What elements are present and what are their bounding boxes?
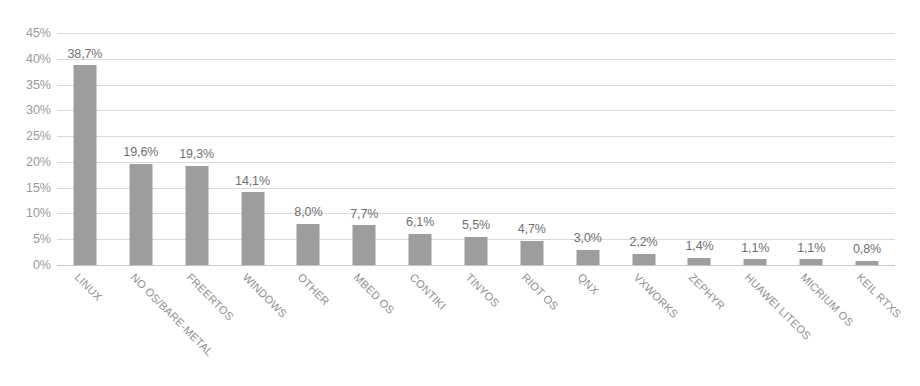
bar-value-label: 7,7% (350, 208, 378, 221)
x-axis-tick: OTHER (280, 267, 336, 386)
bar[interactable] (185, 166, 208, 266)
bar-value-label: 5,5% (462, 219, 490, 232)
bar[interactable] (241, 192, 264, 265)
x-axis-tick: LINUX (57, 267, 113, 386)
bar[interactable] (129, 164, 152, 265)
bar-slot: 38,7% (57, 33, 113, 265)
bar-value-label: 4,7% (518, 223, 546, 236)
x-axis-tick-label: OTHER (296, 271, 332, 307)
bar-value-label: 6,1% (406, 216, 434, 229)
x-axis-tick: NO OS/BARE-METAL (113, 267, 169, 386)
bar-value-label: 19,3% (179, 148, 214, 161)
bar-slot: 1,4% (672, 33, 728, 265)
bar-slot: 4,7% (504, 33, 560, 265)
bar-value-label: 14,1% (235, 175, 270, 188)
x-axis-tick-label: LINUX (72, 271, 104, 303)
bar[interactable] (353, 225, 376, 265)
bar-value-label: 38,7% (67, 48, 102, 61)
bar-slot: 5,5% (448, 33, 504, 265)
x-axis-tick: CONTIKI (392, 267, 448, 386)
y-axis-tick-label: 40% (0, 53, 51, 66)
y-axis-tick-label: 15% (0, 181, 51, 194)
bar[interactable] (297, 224, 320, 265)
bar[interactable] (576, 250, 599, 265)
x-axis-tick: QNX (560, 267, 616, 386)
bar-chart: 0%5%10%15%20%25%30%35%40%45% 38,7%19,6%1… (0, 0, 920, 386)
bar-value-label: 1,1% (797, 242, 825, 255)
bar[interactable] (73, 65, 96, 265)
bar-slot: 19,6% (113, 33, 169, 265)
y-axis-tick-label: 0% (0, 259, 51, 272)
x-axis-tick: HUAWEI LITEOS (727, 267, 783, 386)
bar-value-label: 2,2% (630, 236, 658, 249)
x-axis-tick-label: KEIL RTXS (855, 271, 904, 320)
y-axis-tick-label: 10% (0, 207, 51, 220)
x-axis-tick: MBED OS (336, 267, 392, 386)
bar[interactable] (464, 237, 487, 265)
bar-slot: 1,1% (783, 33, 839, 265)
bar[interactable] (409, 234, 432, 265)
y-axis-tick-label: 25% (0, 130, 51, 143)
x-axis-tick: WINDOWS (225, 267, 281, 386)
x-axis-tick-label: CONTIKI (408, 271, 449, 312)
bar-slot: 2,2% (616, 33, 672, 265)
x-axis-tick-label: ZEPHYR (687, 271, 728, 312)
bar[interactable] (688, 258, 711, 265)
x-axis: LINUXNO OS/BARE-METALFREERTOSWINDOWSOTHE… (57, 267, 895, 386)
y-axis-tick-label: 5% (0, 233, 51, 246)
y-axis-tick-label: 30% (0, 104, 51, 117)
bar-value-label: 8,0% (294, 206, 322, 219)
bar-slot: 7,7% (336, 33, 392, 265)
x-axis-tick: ZEPHYR (672, 267, 728, 386)
bar-value-label: 1,1% (741, 242, 769, 255)
gridline (57, 265, 895, 266)
bar[interactable] (520, 241, 543, 265)
bar-value-label: 1,4% (685, 240, 713, 253)
x-axis-tick-label: TINYOS (463, 271, 501, 309)
bar-slot: 14,1% (225, 33, 281, 265)
plot-area: 38,7%19,6%19,3%14,1%8,0%7,7%6,1%5,5%4,7%… (57, 33, 895, 265)
bar[interactable] (744, 259, 767, 265)
bar-slot: 0,8% (839, 33, 895, 265)
bar-slot: 19,3% (169, 33, 225, 265)
x-axis-tick: TINYOS (448, 267, 504, 386)
bar-slot: 3,0% (560, 33, 616, 265)
x-axis-tick: KEIL RTXS (839, 267, 895, 386)
bar-value-label: 3,0% (574, 232, 602, 245)
y-axis: 0%5%10%15%20%25%30%35%40%45% (0, 33, 51, 265)
x-axis-tick: FREERTOS (169, 267, 225, 386)
bar-value-label: 0,8% (853, 243, 881, 256)
bar-slot: 6,1% (392, 33, 448, 265)
y-axis-tick-label: 45% (0, 27, 51, 40)
bar-value-label: 19,6% (123, 146, 158, 159)
x-axis-tick: VXWORKS (616, 267, 672, 386)
y-axis-tick-label: 20% (0, 156, 51, 169)
bar[interactable] (632, 254, 655, 265)
bar-slot: 1,1% (727, 33, 783, 265)
x-axis-tick: MICRIUM OS (783, 267, 839, 386)
bar[interactable] (800, 259, 823, 265)
bar[interactable] (856, 261, 879, 265)
y-axis-tick-label: 35% (0, 78, 51, 91)
x-axis-tick-label: QNX (575, 271, 601, 297)
x-axis-tick-label: RIOT OS (519, 271, 560, 312)
x-axis-tick-label: MBED OS (352, 271, 397, 316)
bar-slot: 8,0% (280, 33, 336, 265)
x-axis-tick: RIOT OS (504, 267, 560, 386)
